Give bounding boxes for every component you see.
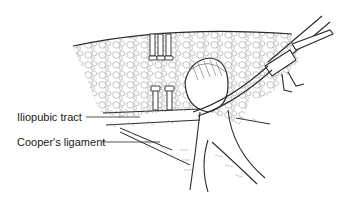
spermatic-vessels bbox=[190, 110, 265, 192]
anatomy-illustration bbox=[0, 0, 344, 204]
label-coopers-ligament: Cooper's ligament bbox=[17, 137, 105, 148]
surgical-clips-upper bbox=[149, 34, 173, 60]
label-iliopubic-tract: Iliopubic tract bbox=[17, 112, 82, 123]
